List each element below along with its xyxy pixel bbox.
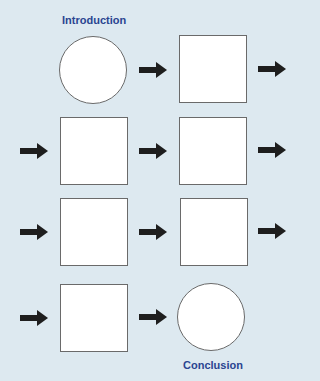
square-node-step5 (180, 198, 248, 266)
right-arrow-icon (139, 309, 167, 325)
right-arrow-icon (20, 310, 48, 326)
square-node-step1 (179, 35, 247, 103)
square-node-step6 (60, 284, 128, 352)
right-arrow-icon (20, 143, 48, 159)
right-arrow-icon (258, 61, 286, 77)
intro-label: Introduction (62, 14, 126, 26)
right-arrow-icon (139, 62, 167, 78)
circle-node-conclusion (177, 283, 245, 351)
right-arrow-icon (258, 223, 286, 239)
square-node-step2 (60, 117, 128, 185)
right-arrow-icon (258, 142, 286, 158)
right-arrow-icon (139, 224, 167, 240)
square-node-step4 (60, 198, 128, 266)
right-arrow-icon (20, 224, 48, 240)
circle-node-intro (59, 36, 127, 104)
square-node-step3 (179, 117, 247, 185)
conclusion-label: Conclusion (183, 359, 243, 371)
right-arrow-icon (139, 143, 167, 159)
